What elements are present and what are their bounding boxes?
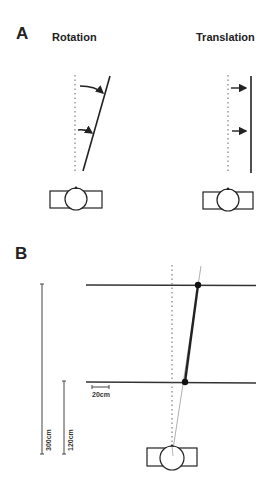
head-icon <box>50 186 102 210</box>
scale-bar-300cm: 300cm <box>40 284 52 454</box>
scale-120-label: 120cm <box>67 429 74 451</box>
rotation-diagram <box>50 75 110 210</box>
diagram-canvas: 300cm 120cm 20cm <box>0 0 270 484</box>
far-plane-line <box>86 285 256 286</box>
near-plane-line <box>86 382 256 383</box>
geometry-diagram: 300cm 120cm 20cm <box>40 265 256 470</box>
rotation-arrow-icon <box>78 130 92 133</box>
far-intersection-dot <box>195 282 201 288</box>
scale-bar-120cm: 120cm <box>62 381 74 454</box>
near-intersection-dot <box>182 379 188 385</box>
translation-diagram <box>203 75 253 211</box>
rotated-line <box>83 76 110 171</box>
rotated-segment <box>185 285 198 382</box>
head-icon <box>147 444 197 470</box>
scale-300-label: 300cm <box>45 429 52 451</box>
head-icon <box>203 187 253 211</box>
rotation-arrow-icon <box>80 86 103 93</box>
scale-20-label: 20cm <box>92 391 110 398</box>
scale-bar-20cm: 20cm <box>92 385 110 398</box>
